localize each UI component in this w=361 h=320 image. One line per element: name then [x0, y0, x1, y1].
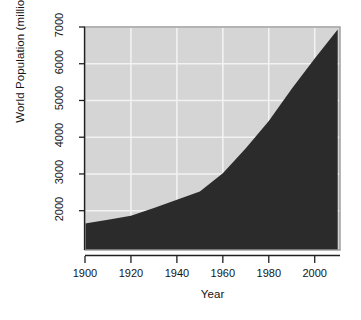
y-tick-label: 5000 [53, 78, 65, 118]
x-tick-label: 1900 [63, 267, 107, 279]
x-tick-label: 1980 [247, 267, 291, 279]
y-tick-label: 2000 [53, 189, 65, 229]
x-tick-label: 1960 [201, 267, 245, 279]
y-tick-label: 6000 [53, 42, 65, 82]
x-tick-label: 1920 [109, 267, 153, 279]
population-area-chart: 200030004000500060007000 190019201940196… [0, 0, 361, 320]
y-tick-label: 4000 [53, 115, 65, 155]
y-tick-label: 3000 [53, 152, 65, 192]
y-axis-title: World Population (millions) [14, 0, 26, 153]
y-tick-label: 7000 [53, 5, 65, 45]
x-axis-title: Year [85, 288, 340, 300]
x-axis-tick-marks [85, 256, 315, 263]
x-tick-label: 2000 [293, 267, 337, 279]
x-tick-label: 1940 [155, 267, 199, 279]
